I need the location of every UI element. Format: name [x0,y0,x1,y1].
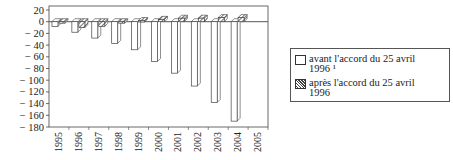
svg-text:− 120: − 120 [20,86,44,97]
chart-legend: avant l'accord du 25 avril1996 ¹ après l… [290,48,450,102]
svg-text:− 80: − 80 [25,63,44,74]
svg-text:0: 0 [39,16,44,27]
svg-text:1998: 1998 [113,132,124,152]
svg-text:− 140: − 140 [20,98,44,109]
svg-text:− 180: − 180 [20,122,44,133]
bar-chart: 200− 20− 40− 60− 80− 100− 120− 140− 160−… [0,0,290,160]
white-swatch-icon [295,55,306,65]
svg-text:− 160: − 160 [20,110,44,121]
svg-text:1995: 1995 [53,132,64,152]
svg-text:20: 20 [34,5,45,16]
svg-text:− 60: − 60 [25,51,44,62]
svg-text:− 100: − 100 [20,75,44,86]
svg-text:1999: 1999 [133,132,144,152]
svg-text:− 20: − 20 [25,28,44,39]
legend-item-avant: avant l'accord du 25 avril1996 ¹ [295,54,415,74]
svg-text:2005: 2005 [252,132,263,152]
svg-text:1997: 1997 [93,132,104,152]
svg-text:2000: 2000 [153,132,164,152]
legend-item-apres: après l'accord du 25 avril1996 [295,78,415,98]
hatched-swatch-icon [295,79,306,89]
svg-text:2001: 2001 [172,132,183,152]
legend-label-apres-year: 1996 [309,87,330,98]
svg-text:2004: 2004 [232,132,243,152]
svg-text:2003: 2003 [212,132,223,152]
svg-text:− 40: − 40 [25,40,44,51]
svg-text:2002: 2002 [192,132,203,152]
legend-label-avant-year: 1996 ¹ [309,63,336,74]
svg-text:1996: 1996 [73,132,84,152]
